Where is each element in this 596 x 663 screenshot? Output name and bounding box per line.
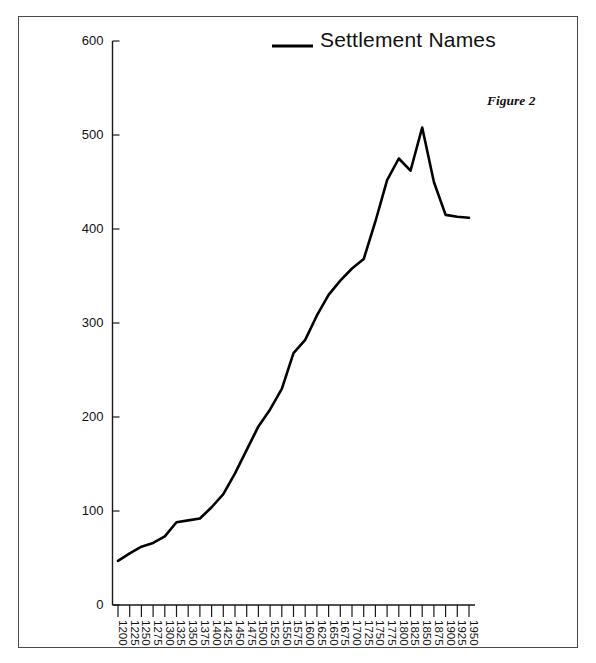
x-tick-label: 1900 — [445, 620, 457, 646]
y-tick-label: 0 — [96, 597, 103, 612]
x-tick-label: 1825 — [409, 620, 421, 646]
x-axis-tick-labels: 1200122512501275130013251350137514001425… — [117, 620, 480, 646]
x-tick-label: 1375 — [199, 620, 211, 646]
y-tick-label: 200 — [82, 409, 104, 424]
x-tick-label: 1600 — [304, 620, 316, 646]
x-tick-label: 1400 — [211, 620, 223, 646]
x-tick-label: 1550 — [281, 620, 293, 646]
legend-label: Settlement Names — [320, 28, 496, 52]
y-axis-tick-labels: 0100200300400500600 — [82, 33, 104, 612]
figure-caption: Figure 2 — [487, 93, 535, 109]
x-axis-ticks — [118, 605, 469, 617]
y-axis: 0100200300400500600 — [82, 33, 120, 612]
x-tick-label: 1725 — [363, 620, 375, 646]
x-tick-label: 1800 — [398, 620, 410, 646]
x-tick-label: 1325 — [175, 620, 187, 646]
x-tick-label: 1675 — [339, 620, 351, 646]
x-tick-label: 1625 — [316, 620, 328, 646]
x-tick-label: 1650 — [328, 620, 340, 646]
x-tick-label: 1250 — [140, 620, 152, 646]
x-tick-label: 1225 — [129, 620, 141, 646]
y-tick-label: 400 — [82, 221, 104, 236]
y-tick-label: 100 — [82, 503, 104, 518]
x-tick-label: 1500 — [257, 620, 269, 646]
x-tick-label: 1775 — [386, 620, 398, 646]
x-axis: 1200122512501275130013251350137514001425… — [113, 605, 480, 646]
data-series-settlement-names — [118, 127, 469, 560]
x-tick-label: 1350 — [187, 620, 199, 646]
x-tick-label: 1450 — [234, 620, 246, 646]
y-axis-ticks — [113, 41, 120, 605]
y-tick-label: 600 — [82, 33, 104, 48]
x-tick-label: 1300 — [164, 620, 176, 646]
x-tick-label: 1925 — [456, 620, 468, 646]
x-tick-label: 1275 — [152, 620, 164, 646]
x-tick-label: 1425 — [222, 620, 234, 646]
x-tick-label: 1750 — [374, 620, 386, 646]
x-tick-label: 1575 — [292, 620, 304, 646]
x-tick-label: 1525 — [269, 620, 281, 646]
y-tick-label: 300 — [82, 315, 104, 330]
x-tick-label: 1700 — [351, 620, 363, 646]
x-tick-label: 1850 — [421, 620, 433, 646]
figure-container: 0100200300400500600 12001225125012751300… — [0, 0, 596, 663]
x-tick-label: 1475 — [246, 620, 258, 646]
x-tick-label: 1950 — [468, 620, 480, 646]
series-line-settlement-names — [118, 127, 469, 560]
x-tick-label: 1875 — [433, 620, 445, 646]
y-tick-label: 500 — [82, 127, 104, 142]
x-tick-label: 1200 — [117, 620, 129, 646]
